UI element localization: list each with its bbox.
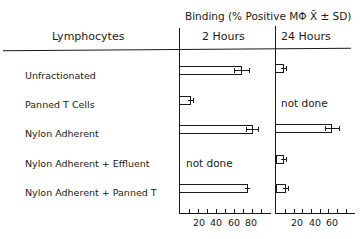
tick-label-24h: 60 xyxy=(326,217,338,228)
tick-label-2h: 40 xyxy=(210,217,222,228)
error-cap xyxy=(286,66,287,71)
error-cap xyxy=(288,186,289,191)
tick xyxy=(243,209,244,213)
binding-header: Binding (% Positive MΦ X̄ ± SD) xyxy=(185,10,351,22)
error-cap xyxy=(325,126,326,131)
tick-label-24h: 20 xyxy=(291,217,303,228)
tick xyxy=(252,209,253,213)
tick xyxy=(216,209,217,213)
bar-2h-unfractionated xyxy=(179,66,242,75)
bar-24h-nylon-adherent xyxy=(275,124,332,133)
tick xyxy=(198,209,199,213)
tick xyxy=(302,209,303,213)
bar-2h-nylon-adherent xyxy=(179,125,253,134)
error-bar xyxy=(234,70,250,71)
col-header-24h: 24 Hours xyxy=(281,30,331,43)
row-label-unfractionated: Unfractionated xyxy=(25,70,96,81)
row-label-panned-t: Panned T Cells xyxy=(25,99,95,110)
error-cap xyxy=(247,186,248,191)
tick xyxy=(328,209,329,213)
x-axis-24h xyxy=(275,213,355,214)
tick xyxy=(294,209,295,213)
tick xyxy=(311,209,312,213)
error-cap xyxy=(286,157,287,162)
error-cap xyxy=(339,126,340,131)
row-label-nylon-adherent: Nylon Adherent xyxy=(25,128,99,139)
tick-label-2h: 80 xyxy=(245,217,257,228)
col-header-2h: 2 Hours xyxy=(202,30,245,43)
error-cap xyxy=(258,127,259,132)
not-done-24h: not done xyxy=(281,97,328,109)
tick-label-2h: 60 xyxy=(228,217,240,228)
lymphocytes-header: Lymphocytes xyxy=(52,30,124,43)
error-cap xyxy=(249,68,250,73)
tick-label-24h: 40 xyxy=(309,217,321,228)
tick xyxy=(207,209,208,213)
tick xyxy=(285,209,286,213)
tick-label-2h: 20 xyxy=(193,217,205,228)
x-axis-2h xyxy=(179,213,271,214)
error-cap xyxy=(246,127,247,132)
header-rule xyxy=(3,48,351,52)
tick xyxy=(234,209,235,213)
tick xyxy=(189,209,190,213)
tick xyxy=(337,209,338,213)
row-label-nylon-effluent: Nylon Adherent + Effluent xyxy=(25,158,150,169)
bar-2h-nylon-panned-t xyxy=(179,184,248,193)
error-cap xyxy=(193,98,194,103)
tick xyxy=(261,209,262,213)
tick xyxy=(320,209,321,213)
error-cap xyxy=(234,68,235,73)
error-bar xyxy=(325,128,340,129)
tick xyxy=(225,209,226,213)
tick xyxy=(346,209,347,213)
row-label-nylon-panned-t: Nylon Adherent + Panned T xyxy=(25,187,157,198)
not-done-2h: not done xyxy=(186,157,233,169)
